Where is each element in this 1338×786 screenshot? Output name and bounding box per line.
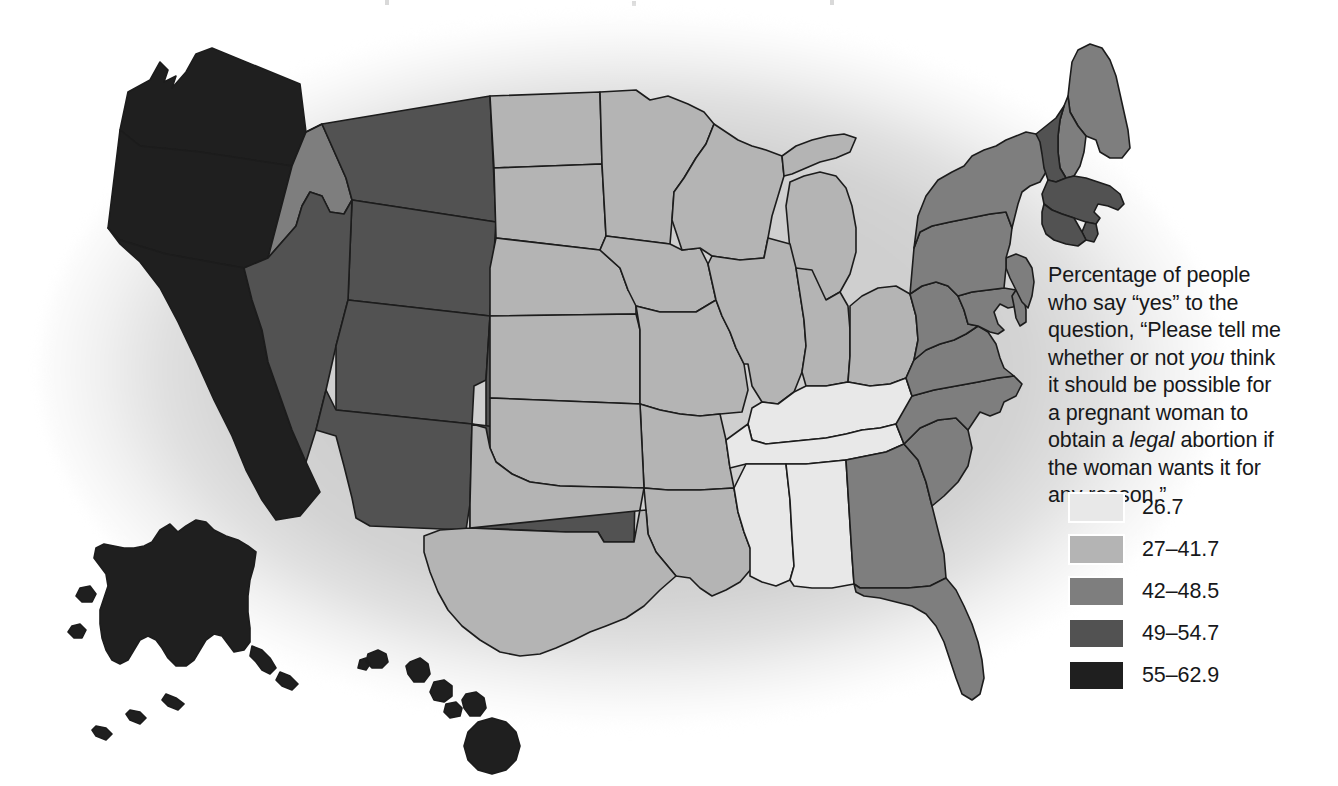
caption-line-1: Percentage of people <box>1048 262 1316 290</box>
legend-swatch-class-1 <box>1068 492 1125 523</box>
state-FL[interactable] <box>854 578 984 700</box>
caption-line-4: whether or not you think <box>1048 345 1316 373</box>
legend-item[interactable]: 49–54.7 <box>1068 613 1318 653</box>
legend-item[interactable]: 27–41.7 <box>1068 529 1318 569</box>
legend-label-class-1: 26.7 <box>1142 495 1183 520</box>
map-caption: Percentage of people who say “yes” to th… <box>1048 262 1316 510</box>
state-SD[interactable] <box>494 164 606 250</box>
legend-item[interactable]: 55–62.9 <box>1068 655 1318 695</box>
caption-line-4-post: think <box>1224 346 1275 370</box>
legend-swatch-class-3 <box>1068 576 1125 607</box>
caption-line-8: the woman wants it for <box>1048 455 1316 483</box>
caption-emphasis-legal: legal <box>1130 428 1175 452</box>
state-OH[interactable] <box>848 286 918 386</box>
choropleth-figure: Percentage of people who say “yes” to th… <box>0 0 1338 786</box>
state-KS[interactable] <box>490 314 640 404</box>
state-AK[interactable] <box>68 520 298 740</box>
caption-line-5: it should be possible for <box>1048 372 1316 400</box>
caption-line-2: who say “yes” to the <box>1048 290 1316 318</box>
state-ND[interactable] <box>490 92 602 168</box>
caption-emphasis-you: you <box>1190 346 1224 370</box>
caption-line-6: a pregnant woman to <box>1048 400 1316 428</box>
legend-item[interactable]: 42–48.5 <box>1068 571 1318 611</box>
state-HI[interactable] <box>358 650 520 774</box>
legend-swatch-class-5 <box>1068 660 1125 691</box>
legend-item[interactable]: 26.7 <box>1068 487 1318 527</box>
state-AL[interactable] <box>786 460 854 588</box>
legend-label-class-4: 49–54.7 <box>1142 621 1219 646</box>
caption-line-7: obtain a legal abortion if <box>1048 427 1316 455</box>
legend-swatch-class-2 <box>1068 534 1125 565</box>
legend-label-class-3: 42–48.5 <box>1142 579 1219 604</box>
caption-line-7-pre: obtain a <box>1048 428 1130 452</box>
caption-line-3: question, “Please tell me <box>1048 317 1316 345</box>
caption-line-4-pre: whether or not <box>1048 346 1190 370</box>
state-AR[interactable] <box>640 404 734 490</box>
legend-label-class-2: 27–41.7 <box>1142 537 1219 562</box>
legend-label-class-5: 55–62.9 <box>1142 663 1219 688</box>
map-legend: 26.7 27–41.7 42–48.5 49–54.7 55–62.9 <box>1068 487 1318 697</box>
legend-swatch-class-4 <box>1068 618 1125 649</box>
caption-line-7-post: abortion if <box>1175 428 1274 452</box>
state-UT[interactable] <box>336 300 490 424</box>
